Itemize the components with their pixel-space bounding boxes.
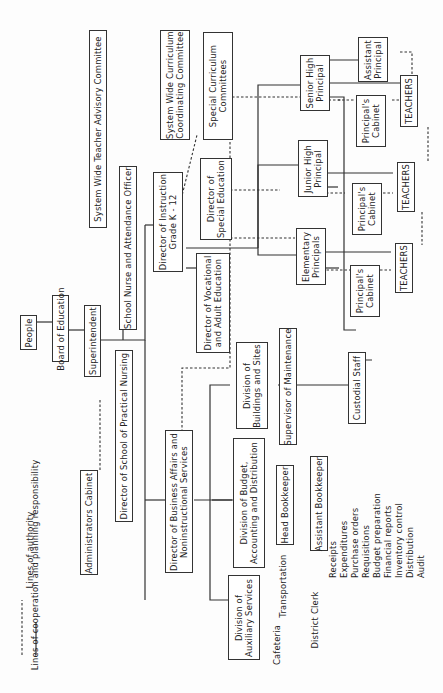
node-director-business-affairs: Director of Business Affairs and Noninst… bbox=[165, 430, 193, 573]
node-board-of-education: Board of Education bbox=[52, 295, 69, 362]
node-principals-cabinet-junior: Principal's Cabinet bbox=[352, 183, 382, 235]
bookkeeper-duties-list: Receipts Expenditures Purchase orders Re… bbox=[328, 500, 428, 570]
node-division-auxiliary-services: Division of Auxiliary Services bbox=[228, 575, 260, 660]
unit-district-clerk: District Clerk bbox=[308, 590, 322, 650]
node-administrators-cabinet: Administrators Cabinet bbox=[80, 470, 98, 575]
node-superintendent: Superintendent bbox=[84, 305, 101, 377]
node-people: People bbox=[20, 315, 37, 350]
node-director-vocational-education: Director of Vocational and Adult Educati… bbox=[196, 253, 230, 353]
node-assistant-bookkeeper: Assistant Bookkeeper bbox=[310, 456, 328, 551]
node-director-instruction: Director of Instruction Grade K - 12 bbox=[153, 172, 183, 272]
org-chart: Lines of cooperation and planning respon… bbox=[0, 0, 443, 693]
node-practical-nursing-director: Director of School of Practical Nursing bbox=[115, 350, 133, 522]
node-division-budget: Division of Budget, Accounting and Distr… bbox=[233, 438, 265, 568]
node-supervisor-maintenance: Supervisor of Maintenance bbox=[279, 328, 297, 445]
legend-solid-label: Lines of authority bbox=[25, 512, 35, 589]
node-elementary-principals: Elementary Principals bbox=[296, 228, 326, 285]
node-junior-high-principal: Junior High Principal bbox=[298, 140, 328, 197]
node-assistant-principal: Assistant Principal bbox=[358, 37, 388, 82]
node-senior-high-principal: Senior High Principal bbox=[300, 55, 330, 111]
node-division-buildings-sites: Division of Buildings and Sites bbox=[236, 342, 268, 429]
legend: Lines of cooperation and planning respon… bbox=[10, 470, 40, 660]
node-custodial-staff: Custodial Staff bbox=[348, 352, 366, 424]
node-director-special-education: Director of Special Education bbox=[200, 158, 232, 240]
unit-transportation: Transportation bbox=[276, 555, 290, 617]
node-nurse-attendance-officer: School Nurse and Attendance Officer bbox=[119, 166, 137, 330]
node-teacher-advisory-committee: System Wide Teacher Advisory Committee bbox=[89, 30, 107, 228]
node-curriculum-coordinating-committee: System Wide Curriculum Coordinating Comm… bbox=[160, 30, 190, 140]
node-special-curriculum-committees: Special Curriculum Committees bbox=[203, 32, 233, 140]
node-teachers-elementary: TEACHERS bbox=[395, 243, 413, 293]
node-principals-cabinet-senior: Principal's Cabinet bbox=[356, 95, 386, 147]
node-head-bookkeeper: Head Bookkeeper bbox=[276, 465, 294, 545]
node-teachers-junior: TEACHERS bbox=[397, 162, 415, 212]
node-teachers-senior: TEACHERS bbox=[400, 75, 418, 127]
node-principals-cabinet-elementary: Principal's Cabinet bbox=[350, 265, 380, 317]
unit-cafeteria: Cafeteria bbox=[270, 620, 284, 670]
